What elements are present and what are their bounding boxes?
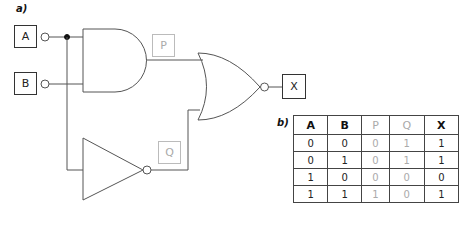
cell-x: 1 <box>424 186 458 203</box>
cell-q: 1 <box>389 135 424 152</box>
input-b-bubble <box>41 80 49 88</box>
nor-bubble <box>261 83 269 91</box>
header-q: Q <box>389 116 424 135</box>
cell-x: 0 <box>424 169 458 186</box>
truth-table: A B P Q X 0 0 0 1 1 0 1 0 1 1 1 0 0 0 0 <box>293 115 459 203</box>
nor-gate <box>198 53 260 120</box>
header-p: P <box>362 116 390 135</box>
truth-table-header: A B P Q X <box>294 116 459 135</box>
output-x-box: X <box>282 74 306 99</box>
cell-b: 0 <box>328 135 362 152</box>
input-a-box: A <box>14 25 37 48</box>
cell-p: 1 <box>362 186 390 203</box>
cell-x: 1 <box>424 135 458 152</box>
not-gate <box>83 138 143 200</box>
header-a: A <box>294 116 328 135</box>
input-b-box: B <box>14 72 37 95</box>
intermediate-q-box: Q <box>158 141 181 164</box>
cell-b: 1 <box>328 186 362 203</box>
not-bubble <box>143 166 151 174</box>
cell-q: 0 <box>389 169 424 186</box>
cell-x: 1 <box>424 152 458 169</box>
table-row: 0 1 0 1 1 <box>294 152 459 169</box>
cell-a: 0 <box>294 135 328 152</box>
table-row: 0 0 0 1 1 <box>294 135 459 152</box>
cell-a: 1 <box>294 186 328 203</box>
part-b-label: b) <box>277 117 289 128</box>
cell-b: 0 <box>328 169 362 186</box>
cell-p: 0 <box>362 169 390 186</box>
cell-q: 1 <box>389 152 424 169</box>
header-x: X <box>424 116 458 135</box>
header-b: B <box>328 116 362 135</box>
table-row: 1 1 1 0 1 <box>294 186 459 203</box>
input-a-bubble <box>41 33 49 41</box>
and-gate <box>83 29 147 92</box>
cell-p: 0 <box>362 135 390 152</box>
intermediate-p-box: P <box>152 34 175 57</box>
cell-q: 0 <box>389 186 424 203</box>
cell-b: 1 <box>328 152 362 169</box>
cell-p: 0 <box>362 152 390 169</box>
cell-a: 1 <box>294 169 328 186</box>
table-row: 1 0 0 0 0 <box>294 169 459 186</box>
cell-a: 0 <box>294 152 328 169</box>
